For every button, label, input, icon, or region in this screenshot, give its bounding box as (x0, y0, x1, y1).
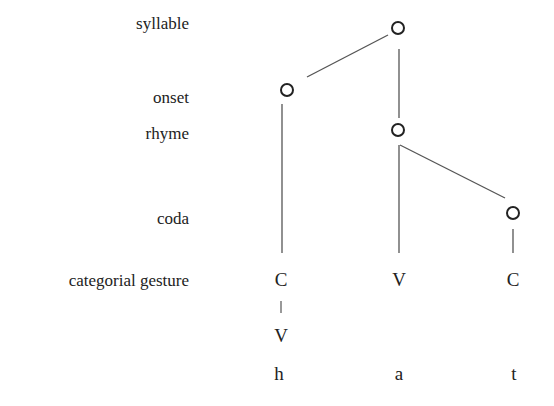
gesture-v-secondary: V (266, 325, 296, 347)
segment-t: t (499, 363, 529, 385)
segment-a: a (384, 363, 414, 385)
syllable-structure-diagram: syllable onset rhyme coda categorial ges… (0, 0, 554, 406)
onset-node-icon (281, 84, 293, 96)
segment-h: h (264, 363, 294, 385)
edge-syllable-onset (307, 35, 388, 77)
gesture-c-coda: C (498, 269, 528, 291)
tier-label-rhyme: rhyme (146, 124, 189, 144)
tier-label-coda: coda (157, 209, 189, 229)
gesture-v-nucleus: V (384, 269, 414, 291)
tier-label-onset: onset (153, 88, 189, 108)
edge-rhyme-coda (400, 145, 505, 198)
tier-label-categorial-gesture: categorial gesture (69, 271, 189, 291)
syllable-node-icon (392, 22, 404, 34)
tier-label-syllable: syllable (136, 14, 189, 34)
coda-node-icon (507, 207, 519, 219)
gesture-c-onset: C (266, 269, 296, 291)
rhyme-node-icon (392, 124, 404, 136)
